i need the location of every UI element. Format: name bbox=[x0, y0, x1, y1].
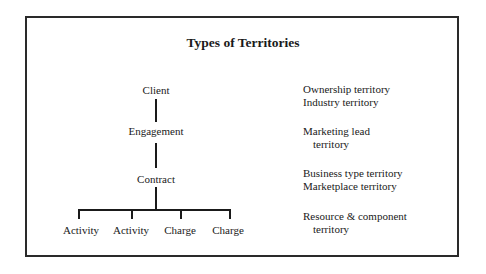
territory-group-client: Ownership territory Industry territory bbox=[303, 83, 390, 109]
territory-line: Resource & component bbox=[303, 210, 407, 223]
node-activity-2: Activity bbox=[113, 224, 149, 236]
connector-contract-bar bbox=[155, 187, 157, 210]
territory-line: Marketplace territory bbox=[303, 180, 403, 193]
connector-leaf-4 bbox=[229, 209, 231, 219]
territory-line: Ownership territory bbox=[303, 83, 390, 96]
connector-client-engagement bbox=[155, 99, 157, 122]
territory-group-leaves: Resource & component territory bbox=[303, 210, 407, 236]
territory-line: Business type territory bbox=[303, 167, 403, 180]
node-engagement: Engagement bbox=[129, 125, 184, 137]
node-charge-2: Charge bbox=[212, 224, 244, 236]
node-charge-1: Charge bbox=[164, 224, 196, 236]
territory-group-engagement: Marketing lead territory bbox=[303, 125, 370, 151]
territory-line: territory bbox=[303, 223, 407, 236]
territory-line: Marketing lead bbox=[303, 125, 370, 138]
connector-leaf-1 bbox=[78, 209, 80, 219]
connector-leaf-3 bbox=[180, 209, 182, 219]
territory-line: Industry territory bbox=[303, 96, 390, 109]
territory-line: territory bbox=[303, 138, 370, 151]
node-activity-1: Activity bbox=[63, 224, 99, 236]
connector-leaf-bar bbox=[78, 209, 231, 211]
diagram-title: Types of Territories bbox=[0, 35, 486, 51]
connector-engagement-contract bbox=[155, 143, 157, 168]
territory-group-contract: Business type territory Marketplace terr… bbox=[303, 167, 403, 193]
node-client: Client bbox=[143, 84, 170, 96]
node-contract: Contract bbox=[137, 173, 175, 185]
connector-leaf-2 bbox=[131, 209, 133, 219]
